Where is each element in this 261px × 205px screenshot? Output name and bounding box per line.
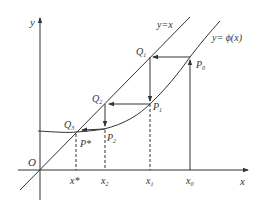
p1-label: P1	[152, 101, 162, 113]
pstar-label: P*	[79, 138, 91, 149]
q3-label: Q3	[64, 119, 74, 131]
xstar-tick-label: x*	[69, 175, 79, 186]
diagram-svg: y x O y=x y= ϕ(x) P0 P1 P2 P* Q1 Q2 Q3 x…	[0, 0, 261, 205]
p2-label: P2	[106, 132, 116, 144]
p0-label: P0	[195, 59, 205, 71]
y-axis-label: y	[29, 16, 35, 28]
x-axis-label: x	[239, 175, 245, 187]
phi-curve	[38, 21, 220, 132]
q2-label: Q2	[92, 93, 102, 105]
x0-tick-label: x0	[185, 175, 193, 187]
x1-tick-label: x1	[145, 175, 153, 187]
identity-line-label: y=x	[156, 19, 173, 30]
identity-line	[20, 17, 190, 190]
fixed-point-iteration-diagram: y x O y=x y= ϕ(x) P0 P1 P2 P* Q1 Q2 Q3 x…	[0, 0, 261, 205]
q1-label: Q1	[136, 46, 146, 58]
phi-curve-label: y= ϕ(x)	[211, 32, 243, 44]
origin-label: O	[28, 156, 36, 168]
x2-tick-label: x2	[100, 175, 108, 187]
